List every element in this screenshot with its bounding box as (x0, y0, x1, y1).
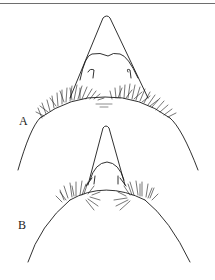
panel-b-drawing (28, 126, 190, 262)
panel-a-drawing (18, 16, 198, 170)
panel-b-label: B (18, 218, 26, 233)
illustration (0, 0, 215, 280)
panel-a-label: A (19, 114, 28, 129)
